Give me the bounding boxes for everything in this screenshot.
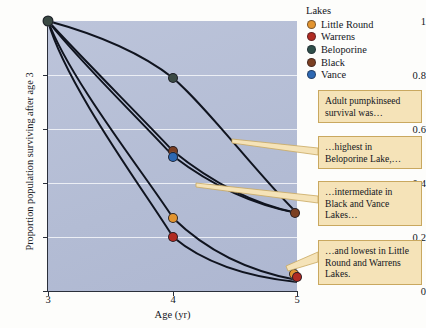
callout-1: Adult pumpkinseed survival was… [318, 90, 422, 123]
callout-4-line-1: …and lowest in Little [325, 245, 416, 257]
callout-4: …and lowest in Little Round and Warrens … [318, 240, 422, 285]
callout-2-line-2: Beloporine Lake,… [325, 153, 416, 165]
callout-1-line-1: Adult pumpkinseed [325, 95, 416, 107]
chart-root: 1 0.8 0.6 0.4 0.2 0 3 4 5 Proportion pop… [0, 0, 426, 328]
callout-3-line-1: …intermediate in [325, 186, 416, 198]
callout-4-line-2: Round and Warrens [325, 257, 416, 269]
callout-2-line-1: …highest in [325, 141, 416, 153]
callout-1-line-2: survival was… [325, 107, 416, 119]
callout-3-line-2: Black and Vance [325, 198, 416, 210]
callout-2: …highest in Beloporine Lake,… [318, 136, 422, 169]
callout-3-line-3: Lakes… [325, 209, 416, 221]
callout-4-line-3: Lakes. [325, 268, 416, 280]
callout-3: …intermediate in Black and Vance Lakes… [318, 181, 422, 226]
